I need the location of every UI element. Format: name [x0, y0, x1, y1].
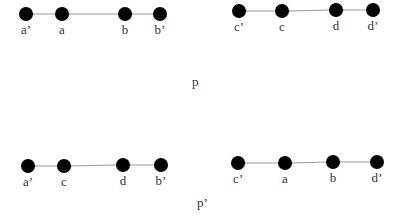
node-label: d [333, 18, 340, 33]
node [154, 158, 168, 172]
node [19, 7, 33, 21]
node-label: b [122, 22, 129, 37]
node-label: a’ [21, 22, 31, 37]
edge-arrow [72, 165, 116, 166]
node [57, 159, 71, 173]
node-label: c [279, 19, 285, 34]
node [278, 156, 292, 170]
node-label: b’ [156, 173, 167, 188]
diagram-canvas: a’abb’c’cdd’a’cdb’c’abd’ p p’ [0, 0, 393, 224]
node-label: b’ [155, 22, 166, 37]
caption-p-prime: p’ [197, 195, 208, 210]
node [118, 7, 132, 21]
node [116, 158, 130, 172]
node-label: b [330, 170, 337, 185]
node [326, 155, 340, 169]
node [370, 155, 384, 169]
edge-arrow [290, 10, 329, 11]
node [153, 7, 167, 21]
chain-top-right: c’cdd’ [232, 3, 380, 34]
node-label: c [61, 174, 67, 189]
node-label: a [59, 22, 65, 37]
node [55, 7, 69, 21]
edge-arrow [293, 162, 326, 163]
node-label: a’ [23, 174, 33, 189]
caption-p: p [192, 74, 199, 89]
node-label: d [120, 173, 127, 188]
node-label: c’ [233, 171, 243, 186]
chain-bottom-right: c’abd’ [231, 155, 384, 186]
node [275, 4, 289, 18]
node [366, 3, 380, 17]
node-label: c’ [234, 19, 244, 34]
chain-top-left: a’abb’ [19, 7, 167, 37]
node [21, 159, 35, 173]
node-label: d’ [372, 170, 383, 185]
node [232, 4, 246, 18]
node-label: a [282, 171, 288, 186]
node-label: d’ [368, 18, 379, 33]
node [329, 3, 343, 17]
node [231, 156, 245, 170]
chain-bottom-left: a’cdb’ [21, 158, 168, 189]
chains-group: a’abb’c’cdd’a’cdb’c’abd’ [19, 3, 384, 189]
